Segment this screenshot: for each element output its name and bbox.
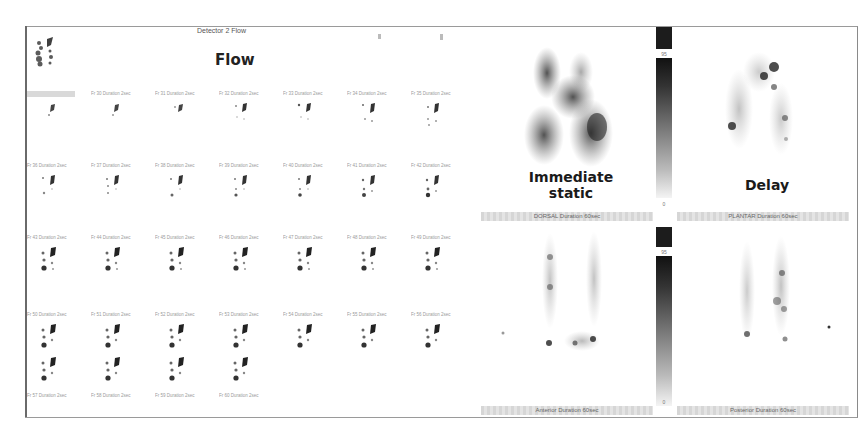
flow-frame[interactable]: Fr 60 Duration 2sec	[219, 319, 283, 399]
plantar-delay-view[interactable]: Delay PLANTAR Duration 60sec	[677, 27, 849, 221]
feet-scan-image	[293, 245, 317, 279]
frame-label: Fr 45 Duration 2sec	[155, 235, 219, 240]
detector-title: Detector 2 Flow	[197, 27, 246, 34]
flow-frame[interactable]: Fr 46 Duration 2sec	[219, 235, 283, 305]
frame-label: Fr 51 Duration 2sec	[91, 312, 155, 317]
flow-frame[interactable]: Fr 41 Duration 2sec	[347, 163, 411, 233]
flow-frame[interactable]: Fr 48 Duration 2sec	[347, 235, 411, 305]
frame-label: Fr 49 Duration 2sec	[411, 235, 475, 240]
colorbar-min-label: 0	[656, 201, 672, 207]
flow-frame[interactable]: Fr 36 Duration 2sec	[27, 163, 91, 233]
immediate-label-line1: Immediate	[511, 169, 631, 185]
feet-scan-image	[165, 245, 189, 279]
frame-label: Fr 31 Duration 2sec	[155, 91, 219, 96]
flow-frame[interactable]: Fr 42 Duration 2sec	[411, 163, 475, 233]
frame-label: Fr 57 Duration 2sec	[27, 393, 91, 398]
frame-label: Fr 34 Duration 2sec	[347, 91, 411, 96]
frame-label: Fr 48 Duration 2sec	[347, 235, 411, 240]
flow-annotation: Flow	[215, 51, 255, 69]
plantar-caption: PLANTAR Duration 60sec	[677, 212, 849, 221]
flow-frame[interactable]: Fr 56 Duration 2sec	[411, 312, 475, 382]
frame-label: Fr 44 Duration 2sec	[91, 235, 155, 240]
flow-frame[interactable]: Fr 38 Duration 2sec	[155, 163, 219, 233]
flow-frame[interactable]: Fr 55 Duration 2sec	[347, 312, 411, 382]
dorsal-caption: DORSAL Duration 60sec	[481, 212, 653, 221]
feet-scan-image	[421, 173, 445, 203]
feet-scan-image	[293, 101, 317, 131]
frame-label: Fr 43 Duration 2sec	[27, 235, 91, 240]
posterior-view[interactable]: Posterior Duration 60sec	[677, 221, 849, 415]
flow-frame[interactable]: Fr 49 Duration 2sec	[411, 235, 475, 305]
anterior-view[interactable]: Anterior Duration 60sec	[481, 221, 653, 415]
feet-scan-image	[101, 245, 125, 279]
feet-scan-image	[165, 173, 189, 203]
flow-frame[interactable]	[27, 91, 91, 161]
frame-label: Fr 39 Duration 2sec	[219, 163, 283, 168]
feet-scan-image	[357, 173, 381, 203]
colorbar-max-label: 95	[656, 249, 672, 255]
frame-label: Fr 32 Duration 2sec	[219, 91, 283, 96]
delay-annotation: Delay	[717, 177, 817, 193]
faint-activity-dot	[378, 34, 381, 39]
flow-frame[interactable]: Fr 35 Duration 2sec	[411, 91, 475, 161]
frame-label: Fr 52 Duration 2sec	[155, 312, 219, 317]
flow-frame[interactable]: Fr 31 Duration 2sec	[155, 91, 219, 161]
frame-label: Fr 40 Duration 2sec	[283, 163, 347, 168]
flow-frame[interactable]: Fr 32 Duration 2sec	[219, 91, 283, 161]
frame-label: Fr 42 Duration 2sec	[411, 163, 475, 168]
frame-label: Fr 47 Duration 2sec	[283, 235, 347, 240]
frame-label: Fr 55 Duration 2sec	[347, 312, 411, 317]
feet-scan-image	[165, 355, 189, 389]
posterior-legs-scan-image	[677, 221, 849, 406]
anterior-legs-scan-image	[481, 221, 653, 406]
flow-frame[interactable]: Fr 44 Duration 2sec	[91, 235, 155, 305]
flow-panel: Detector 2 Flow Flow Fr 30 Duration 2sec…	[27, 27, 480, 415]
feet-scan-image	[421, 245, 445, 279]
immediate-label-line2: static	[511, 185, 631, 201]
frame-label: Fr 36 Duration 2sec	[27, 163, 91, 168]
feet-scan-image	[101, 101, 125, 131]
faint-activity-dot	[440, 34, 443, 40]
frame-label: Fr 38 Duration 2sec	[155, 163, 219, 168]
intensity-colorbar-bottom: 95 0	[656, 221, 672, 415]
feet-scan-image	[101, 355, 125, 389]
frame-label: Fr 53 Duration 2sec	[219, 312, 283, 317]
colorbar-min-label: 0	[656, 399, 672, 405]
flow-frame[interactable]: Fr 47 Duration 2sec	[283, 235, 347, 305]
intensity-colorbar-top: 95 0	[656, 27, 672, 221]
flow-frame[interactable]: Fr 39 Duration 2sec	[219, 163, 283, 233]
colorbar-cap-top	[656, 27, 672, 49]
feet-scan-image	[357, 322, 381, 356]
flow-frame[interactable]: Fr 33 Duration 2sec	[283, 91, 347, 161]
flow-frame[interactable]: Fr 58 Duration 2sec	[91, 319, 155, 399]
frame-label: Fr 60 Duration 2sec	[219, 393, 283, 398]
feet-scan-image	[421, 101, 445, 131]
colorbar-gradient	[656, 58, 672, 198]
frame-label-selected	[27, 91, 75, 97]
flow-frame[interactable]: Fr 59 Duration 2sec	[155, 319, 219, 399]
flow-frame[interactable]: Fr 54 Duration 2sec	[283, 312, 347, 382]
frame-label: Fr 58 Duration 2sec	[91, 393, 155, 398]
colorbar-gradient	[656, 256, 672, 406]
feet-scan-image	[165, 101, 189, 131]
feet-scan-image	[229, 245, 253, 279]
feet-scan-image	[229, 101, 253, 131]
colorbar-max-label: 95	[656, 51, 672, 57]
frame-label: Fr 54 Duration 2sec	[283, 312, 347, 317]
colorbar-cap-top	[656, 227, 672, 247]
frame-label: Fr 37 Duration 2sec	[91, 163, 155, 168]
feet-scan-image	[357, 101, 381, 131]
feet-scan-image	[229, 173, 253, 203]
flow-frame[interactable]: Fr 30 Duration 2sec	[91, 91, 155, 161]
flow-frame[interactable]: Fr 57 Duration 2sec	[27, 319, 91, 399]
feet-scan-image	[357, 245, 381, 279]
flow-frame[interactable]: Fr 34 Duration 2sec	[347, 91, 411, 161]
feet-scan-image	[229, 355, 253, 389]
static-images-panel: Immediate static DORSAL Duration 60sec D…	[481, 27, 857, 415]
flow-frame[interactable]: Fr 45 Duration 2sec	[155, 235, 219, 305]
dorsal-static-view[interactable]: Immediate static DORSAL Duration 60sec	[481, 27, 653, 221]
flow-frame[interactable]: Fr 37 Duration 2sec	[91, 163, 155, 233]
flow-frame[interactable]: Fr 40 Duration 2sec	[283, 163, 347, 233]
flow-frame[interactable]: Fr 43 Duration 2sec	[27, 235, 91, 305]
feet-scan-image	[37, 245, 61, 279]
